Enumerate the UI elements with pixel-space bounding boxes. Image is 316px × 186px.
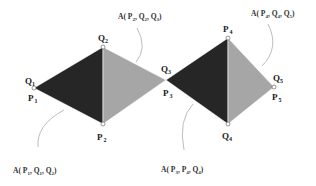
- vertex-marker-4-bottom: [226, 122, 230, 126]
- leader-line-a-p4-q4-q5: [262, 24, 273, 66]
- label-p3: P3: [163, 88, 173, 99]
- annotation-a-p1-q1-q2: A( P1, Q1, Q2): [13, 166, 57, 176]
- vertex-marker-4-top: [226, 36, 230, 40]
- label-p2: P2: [97, 132, 107, 143]
- leader-line-a-p3-p4-q4: [182, 104, 193, 150]
- annotation-a-p2-q2-q3: A( P2, Q2, Q3): [118, 12, 162, 22]
- label-p5: P5: [272, 92, 282, 103]
- annotation-a-p3-p4-q4: A( P3, P4, Q4): [161, 165, 204, 175]
- vertex-marker-5: [272, 85, 276, 89]
- label-q4: Q4: [222, 131, 232, 142]
- label-q3: Q3: [161, 64, 171, 75]
- leader-line-a-p2-q2-q3: [136, 28, 142, 62]
- triangle-p1-q1-q2: [34, 47, 103, 124]
- annotation-a-p4-q4-q5: A( P4, Q4, Q5): [251, 9, 295, 19]
- vertex-marker-2-top: [101, 45, 105, 49]
- triangle-strip-diagram: Q1 P1 Q2 P2 Q3 P3 P4 Q4 Q5 P5 A( P2, Q2,…: [0, 0, 316, 186]
- label-q2: Q2: [98, 33, 108, 44]
- label-p1: P1: [28, 93, 38, 104]
- leader-line-a-p1-q1-q2: [38, 110, 64, 147]
- triangle-p4-q4-q5: [228, 38, 274, 124]
- triangle-p2-q2-q3: [103, 47, 166, 124]
- label-q5: Q5: [273, 73, 283, 84]
- vertex-marker-2-bottom: [101, 122, 105, 126]
- label-q1: Q1: [25, 76, 35, 87]
- label-p4: P4: [223, 24, 233, 35]
- diagram-svg: Q1 P1 Q2 P2 Q3 P3 P4 Q4 Q5 P5 A( P2, Q2,…: [0, 0, 316, 186]
- triangle-p3-p4-q4: [166, 38, 228, 124]
